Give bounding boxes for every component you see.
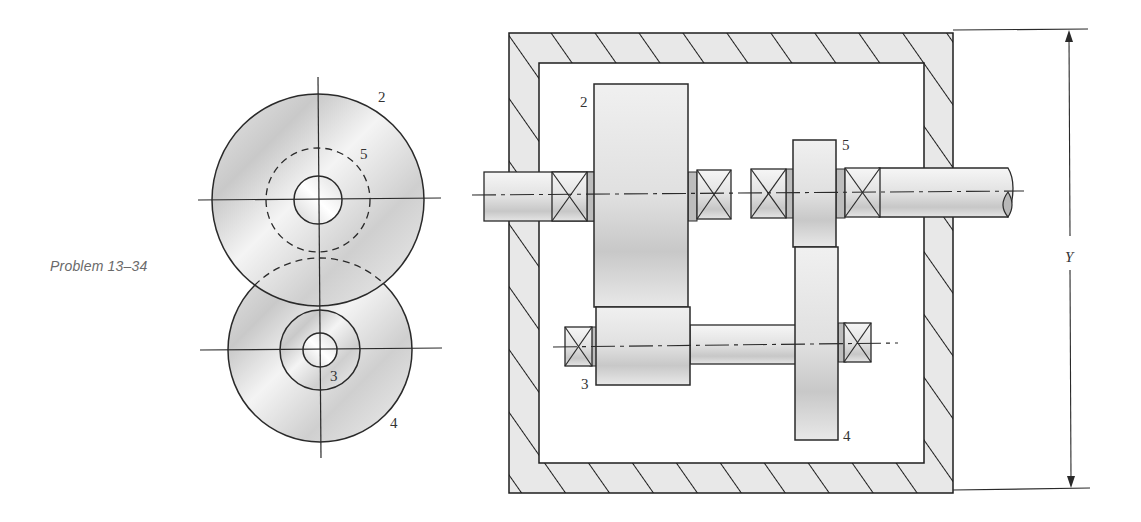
side-label-gear-4: 4: [843, 428, 851, 444]
bearing-counter-right: [844, 323, 871, 362]
input-shaft-bore: [294, 176, 342, 224]
side-label-gear-3: 3: [581, 376, 589, 392]
side-view: 2 5 3 4 Y: [472, 29, 1090, 493]
bearing-output-left: [751, 169, 786, 218]
gear-2-side: [594, 84, 688, 307]
gear-train-figure: 2 5 3 4: [0, 0, 1141, 522]
arrow-up-icon: [1065, 30, 1073, 42]
side-label-gear-5: 5: [842, 137, 850, 153]
end-label-gear-2: 2: [378, 89, 386, 105]
end-label-gear-3: 3: [330, 368, 338, 384]
dimension-label-y: Y: [1065, 249, 1075, 265]
end-view: 2 5 3 4: [198, 77, 442, 458]
bearing-input-left: [552, 172, 587, 221]
side-label-gear-2: 2: [580, 94, 588, 110]
gear-5-side: [793, 140, 836, 247]
arrow-down-icon: [1067, 476, 1075, 488]
end-label-gear-4: 4: [390, 415, 398, 431]
dimension-y: Y: [953, 29, 1090, 490]
bearing-input-right: [697, 170, 731, 219]
housing: [509, 33, 953, 493]
end-label-gear-5: 5: [360, 146, 368, 162]
output-shaft: [879, 168, 1013, 217]
